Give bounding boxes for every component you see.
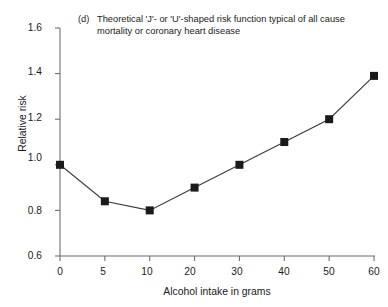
risk-curve-line	[60, 76, 374, 211]
data-point-marker	[56, 161, 64, 169]
data-point-marker	[146, 206, 154, 214]
plot-area	[0, 0, 388, 307]
data-point-marker	[235, 161, 243, 169]
x-axis-ticks	[60, 256, 374, 261]
axes	[55, 28, 375, 261]
risk-curve-markers	[56, 72, 378, 215]
data-point-marker	[191, 184, 199, 192]
data-point-marker	[325, 115, 333, 123]
data-point-marker	[280, 138, 288, 146]
data-point-marker	[101, 197, 109, 205]
data-point-marker	[370, 72, 378, 80]
figure-panel: (d) Theoretical 'J'- or 'U'-shaped risk …	[0, 0, 388, 307]
y-axis-ticks	[55, 28, 60, 256]
